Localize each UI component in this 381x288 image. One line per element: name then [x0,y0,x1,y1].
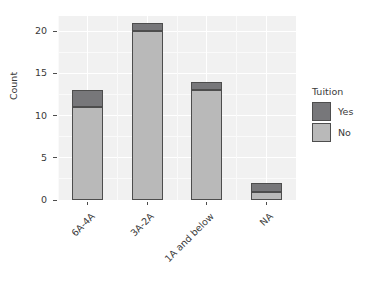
y-axis-title: Count [8,56,19,116]
y-tick-mark [53,31,57,32]
x-tick-mark [206,202,207,206]
legend-items: YesNo [312,101,353,143]
bar-segment-yes [251,183,282,191]
bar-1a-and-below [191,82,222,200]
y-tick-mark [53,157,57,158]
legend-title: Tuition [312,86,353,97]
gridline-major-x [266,16,267,200]
bar-6a-4a [72,90,103,200]
bar-segment-yes [191,82,222,90]
y-tick-mark [53,73,57,74]
bar-segment-yes [132,23,163,31]
y-tick-mark [53,200,57,201]
legend-label: Yes [338,106,353,117]
y-tick-label: 5 [27,153,47,163]
bar-segment-no [191,90,222,200]
legend-item-no: No [312,122,353,143]
bar-segment-yes [72,90,103,107]
bar-segment-no [251,192,282,200]
bar-3a-2a [132,23,163,200]
legend-key-yes [312,102,331,121]
y-tick-label: 20 [27,26,47,36]
legend-item-yes: Yes [312,101,353,122]
gridline-minor-x [236,16,237,200]
bar-na [251,183,282,200]
y-tick-label: 15 [27,68,47,78]
gridline-minor-x [177,16,178,200]
legend: Tuition YesNo [312,86,353,143]
bar-segment-no [132,31,163,200]
legend-key-no [312,123,331,142]
gridline-minor-x [117,16,118,200]
x-tick-mark [147,202,148,206]
y-tick-label: 0 [27,195,47,205]
bar-segment-no [72,107,103,200]
plot-panel [58,16,296,200]
x-tick-mark [87,202,88,206]
x-tick-mark [266,202,267,206]
legend-label: No [338,127,351,138]
y-tick-label: 10 [27,111,47,121]
y-tick-mark [53,115,57,116]
chart-figure: Count 05101520 6A-4A3A-2A1A and belowNA … [0,0,381,288]
